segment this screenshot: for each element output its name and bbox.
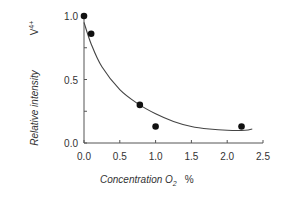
fit-curve bbox=[84, 22, 252, 130]
x-tick-label: 0.0 bbox=[77, 151, 91, 162]
tick-labels: 0.00.51.01.52.02.50.00.51.0 bbox=[64, 11, 270, 162]
chart: 0.00.51.01.52.02.50.00.51.0 Relative int… bbox=[0, 0, 284, 197]
y-axis-species: V4+ bbox=[28, 21, 40, 36]
x-tick-label: 2.5 bbox=[256, 151, 270, 162]
y-tick-label: 0.5 bbox=[64, 75, 78, 86]
y-tick-label: 1.0 bbox=[64, 11, 78, 22]
x-tick-label: 2.0 bbox=[220, 151, 234, 162]
y-axis-label: Relative intensity bbox=[29, 69, 40, 146]
x-tick-label: 1.0 bbox=[149, 151, 163, 162]
data-point bbox=[152, 123, 159, 130]
x-tick-label: 1.5 bbox=[184, 151, 198, 162]
data-point bbox=[238, 123, 245, 130]
data-point bbox=[81, 13, 88, 20]
y-tick-label: 0.0 bbox=[64, 138, 78, 149]
x-tick-label: 0.5 bbox=[113, 151, 127, 162]
data-point bbox=[137, 102, 144, 109]
x-axis-label: Concentration O2% bbox=[100, 174, 194, 187]
data-point bbox=[88, 30, 95, 37]
